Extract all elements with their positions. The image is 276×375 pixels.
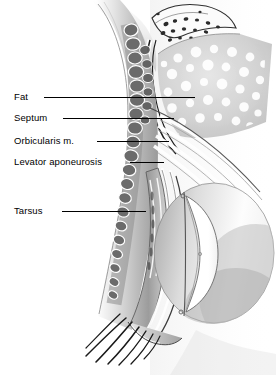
label-septum: Septum xyxy=(14,113,47,123)
label-levator: Levator aponeurosis xyxy=(14,157,102,167)
eyelid-anatomy-figure: FatSeptumOrbicularis m.Levator aponeuros… xyxy=(0,0,276,375)
label-orbic: Orbicularis m. xyxy=(14,136,74,146)
label-tarsus: Tarsus xyxy=(14,206,43,216)
label-fat: Fat xyxy=(14,92,28,102)
anatomy-illustration-svg xyxy=(0,0,276,375)
